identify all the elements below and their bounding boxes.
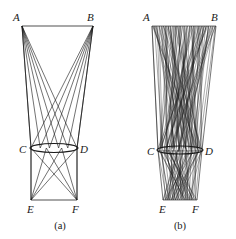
- panel-a-ray-upper-right: [59, 26, 93, 148]
- panel-a-ray-upper-left: [22, 26, 49, 148]
- panel-b-caption: (b): [174, 220, 187, 232]
- panel-b-label-d: D: [204, 145, 213, 157]
- figure-canvas: ABCDEF(a)ABCDEF(b): [0, 0, 236, 239]
- panel-b-ray-upper-left: [152, 26, 158, 150]
- panel-b-label-e: E: [158, 203, 166, 215]
- panel-a-label-d: D: [79, 143, 88, 155]
- geometry-figure: ABCDEF(a)ABCDEF(b): [0, 0, 236, 239]
- panel-a-ray-lower: [31, 148, 62, 200]
- panel-a-caption: (a): [54, 220, 66, 232]
- panel-a-ray-lower: [46, 148, 77, 200]
- panel-b-label-b: B: [211, 11, 218, 23]
- panel-b-label-a: A: [142, 11, 150, 23]
- panel-a-label-b: B: [87, 11, 94, 23]
- panel-a-ray-upper-right: [49, 26, 93, 148]
- panel-a-ray-upper-left: [22, 26, 77, 148]
- panel-b-label-c: C: [147, 145, 155, 157]
- panel-a-ray-upper-right: [68, 26, 93, 148]
- panel-a-label-a: A: [12, 11, 20, 23]
- panel-a-ray-lower: [31, 148, 46, 200]
- panel-a-ray-upper-left: [22, 26, 68, 148]
- panel-a-label-f: F: [71, 203, 79, 215]
- panel-a-label-c: C: [19, 143, 27, 155]
- panel-b-edge-BD: [202, 26, 216, 150]
- panel-b-label-f: F: [191, 203, 199, 215]
- panel-a-label-e: E: [26, 203, 34, 215]
- panel-a-ray-upper-left: [22, 26, 40, 148]
- panel-a-ray-upper-left: [22, 26, 31, 148]
- panel-a-waist-ellipse: [30, 144, 78, 153]
- panel-a-ray-lower: [62, 148, 77, 200]
